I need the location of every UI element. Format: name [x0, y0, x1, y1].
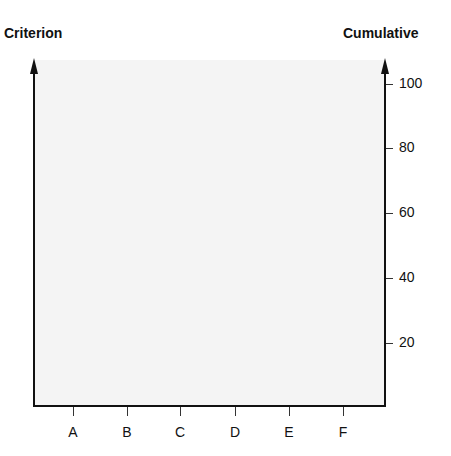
y-tick [386, 84, 393, 85]
y-tick [386, 278, 393, 279]
x-label-f: F [333, 424, 353, 440]
y-label-60: 60 [399, 204, 415, 220]
x-label-d: D [225, 424, 245, 440]
x-tick [180, 407, 181, 416]
x-label-c: C [170, 424, 190, 440]
x-tick [127, 407, 128, 416]
y-label-40: 40 [399, 269, 415, 285]
x-tick [73, 407, 74, 416]
x-label-e: E [279, 424, 299, 440]
y-label-80: 80 [399, 139, 415, 155]
left-axis-arrow-icon [30, 58, 38, 74]
x-label-b: B [117, 424, 137, 440]
right-axis-arrow-icon [381, 58, 389, 74]
y-tick [386, 343, 393, 344]
y-tick [386, 213, 393, 214]
x-label-a: A [63, 424, 83, 440]
x-tick [343, 407, 344, 416]
y-label-100: 100 [399, 75, 422, 91]
y-tick [386, 148, 393, 149]
x-tick [289, 407, 290, 416]
y-label-20: 20 [399, 334, 415, 350]
x-tick [235, 407, 236, 416]
axes [0, 0, 451, 456]
